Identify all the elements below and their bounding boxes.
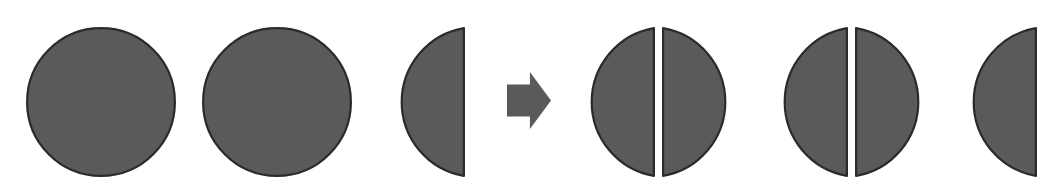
right-half-circle-5 — [974, 28, 1036, 176]
figure-canvas — [0, 0, 1051, 192]
right-split-circle-1-right-half — [663, 28, 725, 176]
right-split-circle-1-left-half — [592, 28, 654, 176]
left-whole-circle-2 — [203, 28, 351, 176]
right-arrow-group — [507, 72, 551, 129]
right-arrow-icon — [507, 72, 551, 129]
right-group — [592, 28, 1036, 176]
right-split-circle-2-right-half — [856, 28, 918, 176]
left-half-circle-3 — [402, 28, 464, 176]
fraction-diagram — [0, 0, 1051, 192]
right-split-circle-2-left-half — [785, 28, 847, 176]
left-whole-circle-1 — [27, 28, 175, 176]
left-group — [27, 28, 464, 176]
